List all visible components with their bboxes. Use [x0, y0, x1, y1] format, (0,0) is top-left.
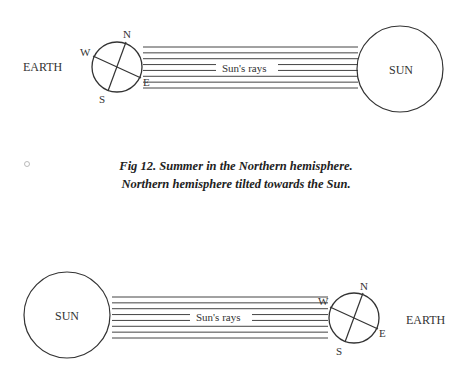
figure-bottom: SUN Sun's rays N W S E EARTH: [24, 272, 446, 358]
caption-line-2: Northern hemisphere tilted towards the S…: [120, 177, 350, 191]
sun-globe: SUN: [357, 26, 443, 112]
compass-west: W: [80, 46, 91, 58]
rays-label: Sun's rays: [196, 311, 240, 323]
earth-label: EARTH: [23, 60, 63, 74]
compass-south: S: [336, 345, 342, 357]
sun-label: SUN: [389, 63, 413, 77]
figure-caption: Fig 12. Summer in the Northern hemispher…: [25, 159, 353, 191]
diagram-canvas: EARTH N W S E Sun's rays SUN Fig 12. Sum…: [0, 0, 469, 376]
bullet-marker-icon: [25, 162, 30, 167]
earth-axis-we: [93, 56, 141, 78]
earth-globe: N W S E: [318, 280, 386, 357]
sun-globe: SUN: [24, 272, 110, 358]
compass-north: N: [360, 280, 368, 292]
compass-south: S: [99, 93, 105, 105]
figure-top: EARTH N W S E Sun's rays SUN: [23, 26, 443, 112]
compass-east: E: [379, 327, 386, 339]
earth-label: EARTH: [406, 313, 446, 327]
sun-label: SUN: [55, 309, 79, 323]
rays-label: Sun's rays: [222, 62, 266, 74]
compass-north: N: [123, 28, 131, 40]
caption-line-1: Fig 12. Summer in the Northern hemispher…: [118, 159, 352, 173]
earth-axis-we: [330, 307, 378, 329]
earth-globe: N W S E: [80, 28, 150, 105]
compass-west: W: [318, 295, 329, 307]
